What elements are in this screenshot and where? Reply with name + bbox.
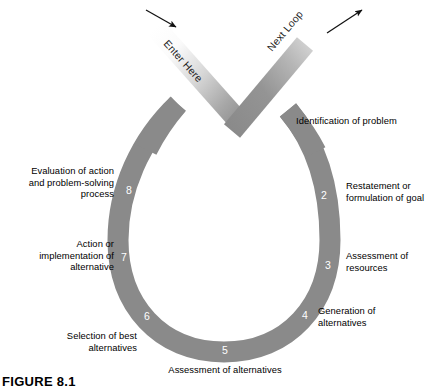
exit-to-label: Exit to — [236, 53, 264, 83]
step-label-6: Selection of best alternatives — [32, 330, 137, 353]
step-number-6: 6 — [144, 310, 150, 322]
step-label-1: Identification of problem — [296, 115, 436, 127]
step-label-4: Generation of alternatives — [318, 305, 428, 328]
step-label-8: Evaluation of action and problem-solving… — [12, 165, 114, 200]
step-number-7: 7 — [121, 251, 127, 263]
figure-container: Enter Here Exit to Next Loop 1 2 3 4 5 6… — [0, 0, 441, 390]
step-label-3: Assessment of resources — [346, 250, 441, 273]
step-label-5: Assessment of alternatives — [140, 364, 310, 376]
step-label-7: Action or implementation of alternative — [22, 238, 114, 273]
step-number-3: 3 — [325, 259, 331, 271]
step-label-2: Restatement or formulation of goal — [346, 180, 441, 203]
figure-caption: FIGURE 8.1 — [2, 374, 76, 389]
step-number-1: 1 — [283, 132, 289, 144]
step-number-2: 2 — [321, 189, 327, 201]
exit-arrow-icon — [327, 10, 362, 33]
step-number-5: 5 — [222, 344, 228, 356]
step-number-8: 8 — [126, 184, 132, 196]
loop-leg-left — [147, 104, 178, 150]
step-number-4: 4 — [302, 309, 308, 321]
